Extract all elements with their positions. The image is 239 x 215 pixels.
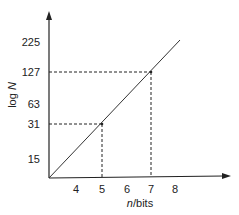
x-axis xyxy=(49,176,224,178)
point-5-31 xyxy=(101,123,104,126)
point-7-127 xyxy=(150,71,153,74)
y-tick: 127 xyxy=(22,66,40,78)
x-axis-arrow-icon xyxy=(222,173,231,179)
x-axis-label: n/bits xyxy=(127,197,154,209)
data-line xyxy=(49,40,180,178)
y-axis-label: log N xyxy=(6,82,18,108)
x-tick: 8 xyxy=(172,183,178,195)
y-axis-arrow-icon xyxy=(46,11,52,20)
x-tick: 5 xyxy=(99,183,105,195)
y-tick: 63 xyxy=(28,98,40,110)
x-tick: 4 xyxy=(73,183,79,195)
y-tick: 31 xyxy=(28,118,40,130)
y-tick: 15 xyxy=(28,153,40,165)
chart: 225 127 63 31 15 4 5 6 7 8 n/bits log N xyxy=(0,0,239,215)
y-tick: 225 xyxy=(22,36,40,48)
x-tick: 7 xyxy=(148,183,154,195)
x-tick: 6 xyxy=(124,183,130,195)
